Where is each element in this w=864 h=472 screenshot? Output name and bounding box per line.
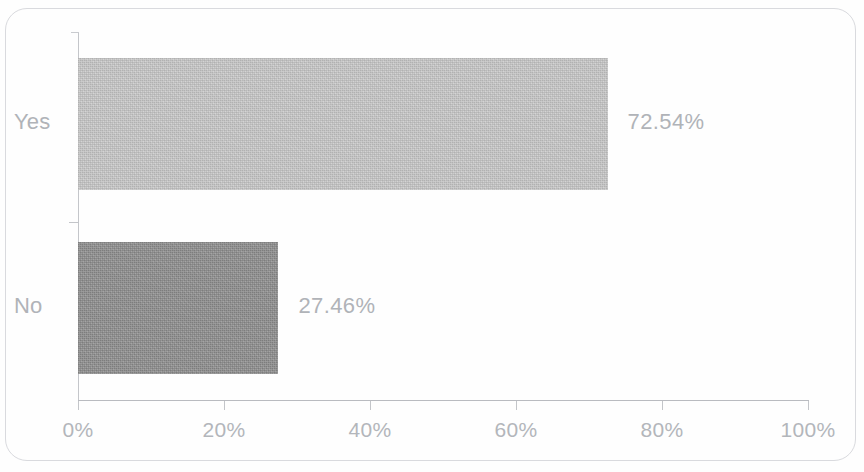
x-axis-tick — [808, 401, 809, 410]
x-axis-tick-label: 40% — [315, 418, 425, 442]
cropped-chart-title — [10, 0, 650, 3]
x-axis-tick — [662, 401, 663, 410]
value-label-yes: 72.54% — [628, 109, 705, 135]
x-axis-tick-label: 80% — [607, 418, 717, 442]
x-axis-tick — [78, 401, 79, 410]
bar-yes — [78, 58, 608, 190]
category-label-no: No — [14, 293, 72, 319]
x-axis-tick — [370, 401, 371, 410]
x-axis-tick-label: 20% — [169, 418, 279, 442]
x-axis-tick-label: 60% — [461, 418, 571, 442]
x-axis-tick-label: 0% — [23, 418, 133, 442]
y-axis-top-tick — [71, 32, 79, 33]
x-axis-line — [78, 400, 809, 401]
x-axis-tick — [516, 401, 517, 410]
y-axis-category-tick — [69, 222, 79, 223]
value-label-no: 27.46% — [298, 293, 375, 319]
category-label-yes: Yes — [14, 109, 72, 135]
x-axis-tick — [224, 401, 225, 410]
x-axis-tick-label: 100% — [753, 418, 863, 442]
bar-chart: 0%20%40%60%80%100% Yes72.54%No27.46% — [0, 0, 864, 472]
bar-no — [78, 242, 278, 374]
